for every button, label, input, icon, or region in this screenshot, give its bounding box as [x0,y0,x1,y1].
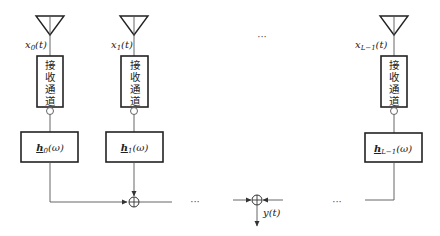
channel-1: x1(t) 接 收 通 道 h1(ω) [106,16,163,196]
ellipsis-sum-right: ··· [332,196,342,207]
signal-label-x0: x0(t) [25,39,47,52]
output-port-icon [131,108,138,115]
signal-label-x1: x1(t) [111,39,133,52]
receiver-char-1: 接 [389,59,400,71]
ellipsis-channels: ··· [257,31,267,42]
channel-L-1: xL−1(t) 接 收 通 道 hL−1(ω) [355,16,422,200]
summing-junction-output: y(t) [233,195,283,226]
output-label-y: y(t) [262,207,281,218]
output-port-icon [391,108,398,115]
receiver-char-1: 接 [45,59,56,71]
receiver-char-4: 道 [45,95,56,107]
receiver-char-3: 通 [130,83,141,95]
connector-line [50,162,127,202]
receiver-char-2: 收 [389,71,400,83]
ellipsis-sum-left: ··· [190,196,200,207]
receiver-char-3: 通 [45,83,56,95]
connector-line [365,162,394,200]
summing-junction-1 [129,197,172,207]
receiver-char-4: 道 [130,95,141,107]
receiver-char-1: 接 [130,59,141,71]
receiver-char-3: 通 [389,83,400,95]
receiver-char-2: 收 [130,71,141,83]
beamformer-diagram: x0(t) 接 收 通 道 h0(ω) x1(t) 接 收 通 道 h1(ω) … [0,0,440,236]
signal-label-xL-1: xL−1(t) [355,39,388,52]
receiver-char-4: 道 [389,95,400,107]
receiver-char-2: 收 [45,71,56,83]
output-port-icon [47,108,54,115]
